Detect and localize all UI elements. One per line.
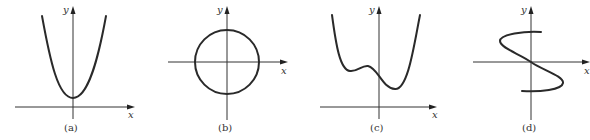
quartic-curve (332, 15, 420, 89)
y-axis-label: y (520, 4, 527, 15)
y-axis-label: y (216, 4, 223, 15)
y-axis-arrow-icon (225, 6, 230, 14)
panel-c: y x (c) (320, 4, 438, 133)
panel-a: y x (a) (15, 4, 135, 133)
panel-label: (a) (64, 122, 78, 133)
y-axis-arrow-icon (377, 6, 382, 14)
panel-label: (d) (522, 122, 536, 133)
panel-d: y x (d) (473, 4, 590, 133)
y-axis-arrow-icon (529, 6, 534, 14)
panel-label: (b) (218, 122, 232, 133)
panel-label: (c) (370, 122, 384, 133)
x-axis-label: x (432, 109, 438, 120)
x-axis-arrow-icon (582, 60, 590, 65)
figure-canvas: y x (a) y x (b) y x (c) y x (d) (0, 0, 590, 140)
x-axis-label: x (128, 109, 134, 120)
x-axis-label: x (584, 65, 590, 76)
x-axis-arrow-icon (280, 60, 288, 65)
parabola-curve (42, 16, 106, 98)
panel-b: y x (b) (168, 4, 288, 133)
y-axis-label: y (368, 4, 375, 15)
y-axis-label: y (62, 4, 69, 15)
y-axis-arrow-icon (71, 6, 76, 14)
x-axis-label: x (281, 65, 287, 76)
